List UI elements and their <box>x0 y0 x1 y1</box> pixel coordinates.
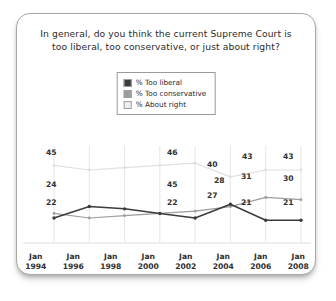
label-too-liberal-1994: 22 <box>46 198 57 207</box>
title-line-2: too liberal, too conservative, or just a… <box>31 40 301 53</box>
point-too-liberal-jan-1998[interactable] <box>123 207 126 210</box>
series-about-right <box>53 162 303 179</box>
legend-swatch-too-liberal <box>124 79 132 87</box>
point-too-conservative-jan-2008[interactable] <box>300 198 303 201</box>
point-about-right-jan-1998[interactable] <box>123 166 126 169</box>
series-line-about-right <box>54 163 301 177</box>
point-too-conservative-jan-1994[interactable] <box>53 212 56 215</box>
x-tick-month: Jan <box>167 252 205 262</box>
chart-gridlines <box>23 146 311 243</box>
point-too-conservative-jan-1996[interactable] <box>88 217 91 220</box>
x-axis-tick-labels: Jan1994Jan1996Jan1998Jan2000Jan2002Jan20… <box>17 252 316 275</box>
point-too-liberal-jan-1994[interactable] <box>52 216 55 219</box>
x-tick-year: 2004 <box>205 262 243 272</box>
line-chart-svg <box>17 146 316 244</box>
x-tick-month: Jan <box>130 252 168 262</box>
x-tick-1998: Jan1998 <box>92 252 130 275</box>
point-about-right-jan-2006[interactable] <box>264 169 267 172</box>
x-tick-month: Jan <box>92 252 130 262</box>
label-too-conservative-2002: 45 <box>167 180 178 189</box>
legend-swatch-too-conservative <box>124 90 132 98</box>
label-about-right-2006: 43 <box>242 152 253 161</box>
x-tick-2000: Jan2000 <box>130 252 168 275</box>
x-tick-month: Jan <box>205 252 243 262</box>
label-too-liberal-2002: 22 <box>167 198 178 207</box>
x-tick-1994: Jan1994 <box>17 252 55 275</box>
legend-item-too-conservative[interactable]: % Too conservative <box>124 88 207 99</box>
legend-label-too-conservative: % Too conservative <box>136 89 207 98</box>
point-too-conservative-jan-1998[interactable] <box>123 214 126 217</box>
label-too-liberal-2008: 21 <box>283 198 294 207</box>
chart-series-layer <box>52 162 302 222</box>
label-too-liberal-2004: 28 <box>214 176 225 185</box>
chart-plot-area: 452422464522402827433121433021 <box>17 146 316 244</box>
x-tick-year: 1996 <box>55 262 93 272</box>
x-tick-year: 1994 <box>17 262 55 272</box>
point-too-liberal-jan-2006[interactable] <box>264 219 267 222</box>
label-about-right-2002: 46 <box>167 148 178 157</box>
point-too-liberal-jan-2000[interactable] <box>158 212 161 215</box>
label-too-conservative-2008: 30 <box>283 174 294 183</box>
x-tick-year: 2006 <box>242 262 280 272</box>
x-tick-year: 2002 <box>167 262 205 272</box>
x-tick-1996: Jan1996 <box>55 252 93 275</box>
point-too-liberal-jan-1996[interactable] <box>88 205 91 208</box>
legend-item-too-liberal[interactable]: % Too liberal <box>124 77 207 88</box>
point-about-right-jan-2008[interactable] <box>300 169 303 172</box>
point-too-conservative-jan-2002[interactable] <box>194 210 197 213</box>
point-about-right-jan-2004[interactable] <box>229 175 232 178</box>
point-too-liberal-jan-2002[interactable] <box>193 216 196 219</box>
label-about-right-2004: 40 <box>207 160 218 169</box>
point-about-right-jan-1994[interactable] <box>53 164 56 167</box>
x-tick-year: 2008 <box>280 262 317 272</box>
point-too-liberal-jan-2004[interactable] <box>229 203 232 206</box>
chart-legend: % Too liberal % Too conservative % About… <box>117 72 216 115</box>
legend-label-too-liberal: % Too liberal <box>136 78 182 87</box>
label-too-conservative-1994: 24 <box>46 180 57 189</box>
legend-swatch-about-right <box>124 101 132 109</box>
x-tick-month: Jan <box>280 252 317 262</box>
chart-card: In general, do you think the current Sup… <box>16 13 316 275</box>
point-about-right-jan-2000[interactable] <box>158 164 161 167</box>
label-about-right-2008: 43 <box>283 152 294 161</box>
point-about-right-jan-1996[interactable] <box>88 169 91 172</box>
x-tick-month: Jan <box>55 252 93 262</box>
label-too-conservative-2006: 31 <box>241 172 252 181</box>
label-too-liberal-2006: 21 <box>241 198 252 207</box>
x-tick-2002: Jan2002 <box>167 252 205 275</box>
x-tick-month: Jan <box>17 252 55 262</box>
point-too-conservative-jan-2006[interactable] <box>264 196 267 199</box>
point-too-liberal-jan-2008[interactable] <box>299 219 302 222</box>
label-about-right-1994: 45 <box>46 148 57 157</box>
x-tick-2004: Jan2004 <box>205 252 243 275</box>
page-title: In general, do you think the current Sup… <box>31 27 301 53</box>
label-too-conservative-2004: 27 <box>207 191 218 200</box>
legend-item-about-right[interactable]: % About right <box>124 99 207 110</box>
x-tick-2006: Jan2006 <box>242 252 280 275</box>
x-tick-month: Jan <box>242 252 280 262</box>
title-line-1: In general, do you think the current Sup… <box>31 27 301 40</box>
x-tick-2008: Jan2008 <box>280 252 317 275</box>
point-about-right-jan-2002[interactable] <box>194 162 197 165</box>
x-tick-year: 1998 <box>92 262 130 272</box>
legend-label-about-right: % About right <box>136 100 186 109</box>
x-tick-year: 2000 <box>130 262 168 272</box>
